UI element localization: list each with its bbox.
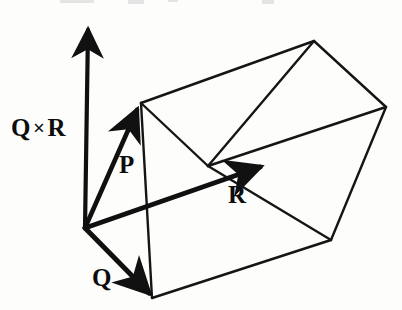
- parallelepiped-drawing: [0, 0, 402, 310]
- edge-interior-to-right-back: [208, 107, 386, 166]
- edge-top-back-to-right-back: [314, 41, 386, 107]
- edge-left-vertical: [141, 103, 152, 298]
- edge-right-back-to-bottom-right: [331, 107, 386, 240]
- label-vector-p: P: [119, 152, 134, 177]
- label-q-operand: Q: [11, 114, 31, 141]
- edge-top-left-to-interior: [141, 103, 208, 166]
- label-q-cross-r: Q×R: [11, 115, 66, 140]
- cross-product-icon: ×: [31, 116, 47, 140]
- edge-bottom-front: [152, 240, 331, 298]
- vector-figure: Q×R P R Q: [0, 0, 402, 310]
- label-r-operand: R: [47, 114, 66, 141]
- label-vector-r: R: [228, 182, 246, 207]
- vector-qxr-shaft: [85, 30, 88, 228]
- label-vector-q: Q: [92, 265, 111, 290]
- solid-edges: [141, 41, 386, 298]
